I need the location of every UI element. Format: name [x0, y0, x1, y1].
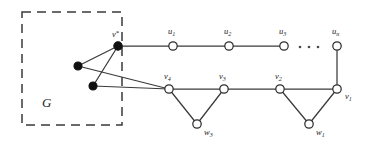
node-un — [333, 42, 341, 50]
ellipsis-group — [299, 46, 320, 49]
label-u2: u2 — [224, 26, 231, 37]
label-v4: v4 — [164, 71, 171, 82]
label-v1: v1 — [345, 91, 352, 102]
node-v2 — [276, 85, 284, 93]
label-g: G — [42, 95, 52, 110]
node-v-star — [114, 42, 122, 50]
edge-w3-v3 — [197, 89, 224, 124]
graph-canvas: G v* u1 u2 u3 un v4 v3 v2 v1 w3 w1 — [0, 0, 371, 146]
edge-v2-w1 — [280, 89, 309, 124]
label-un: un — [332, 26, 339, 37]
node-g2 — [89, 82, 97, 90]
node-u1 — [169, 42, 177, 50]
node-u2 — [225, 42, 233, 50]
dashed-region-g — [22, 12, 122, 125]
label-v3: v3 — [219, 71, 226, 82]
label-w3: w3 — [204, 127, 213, 138]
label-v2: v2 — [275, 71, 282, 82]
label-v-star: v* — [112, 29, 120, 40]
node-u3 — [280, 42, 288, 50]
label-w1: w1 — [316, 127, 325, 138]
label-u1: u1 — [168, 26, 175, 37]
node-w3 — [193, 120, 201, 128]
edge-w1-v1 — [309, 89, 337, 124]
node-v4 — [165, 85, 173, 93]
edge-group — [78, 46, 337, 124]
ellipsis-dot — [308, 46, 311, 49]
node-v1 — [333, 85, 341, 93]
graph-figure: G v* u1 u2 u3 un v4 v3 v2 v1 w3 w1 — [0, 0, 371, 146]
node-v3 — [220, 85, 228, 93]
ellipsis-dot — [317, 46, 320, 49]
label-u3: u3 — [279, 26, 286, 37]
edge-v4-w3 — [169, 89, 197, 124]
ellipsis-dot — [299, 46, 302, 49]
node-g1 — [74, 62, 82, 70]
node-w1 — [305, 120, 313, 128]
